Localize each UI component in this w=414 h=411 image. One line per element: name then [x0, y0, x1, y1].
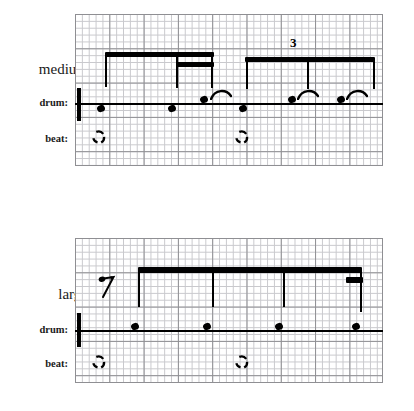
stem-m2: [176, 53, 178, 88]
stem-l3: [283, 269, 285, 307]
stem-m6: [373, 58, 375, 89]
stem-m1: [105, 53, 107, 87]
drum-label-large: drum:: [0, 325, 68, 336]
beam-primary-1-medium: [105, 52, 214, 57]
beat-label-large: beat:: [0, 359, 68, 370]
beat-marker-m1: [92, 130, 106, 144]
beat-marker-l2: [235, 355, 249, 369]
stem-l4: [360, 269, 362, 312]
stem-m3: [211, 53, 213, 88]
beam-primary-large: [138, 267, 362, 273]
stem-l2: [212, 269, 214, 307]
beam-primary-2-medium: [245, 57, 375, 62]
triplet-number-3: 3: [290, 36, 297, 49]
beam-secondary-1-medium: [176, 62, 214, 67]
arc-mark-m1: [210, 88, 232, 100]
eighth-rest-icon: [97, 274, 117, 300]
arc-mark-m3: [346, 88, 368, 100]
stem-m5: [307, 58, 309, 89]
beat-label-medium: beat:: [0, 134, 68, 145]
beat-marker-m2: [235, 130, 249, 144]
stem-m4: [246, 58, 248, 89]
graph-grid-large: [75, 238, 383, 383]
drum-line-large: [75, 330, 383, 332]
drum-label-medium: drum:: [0, 98, 68, 109]
drum-line-medium: [75, 103, 383, 105]
beat-marker-l1: [92, 355, 106, 369]
stem-l1: [138, 269, 140, 307]
arc-mark-m2: [297, 88, 319, 100]
